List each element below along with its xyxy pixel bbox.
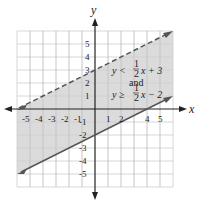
svg-text:2: 2 bbox=[85, 78, 90, 88]
svg-text:-2: -2 bbox=[61, 114, 69, 124]
x-axis-label: x bbox=[188, 102, 195, 116]
y-axis-up-arrow-icon bbox=[92, 18, 98, 26]
svg-text:4: 4 bbox=[85, 52, 90, 62]
ineq1-rhs: x + 3 bbox=[140, 65, 162, 76]
inequality-graph: y x -5 -4 -3 -2 -1 1 2 4 5 5 4 3 2 1 -1 … bbox=[0, 0, 200, 204]
svg-text:1: 1 bbox=[85, 91, 90, 101]
svg-text:-3: -3 bbox=[48, 114, 56, 124]
svg-text:-4: -4 bbox=[35, 114, 43, 124]
svg-text:5: 5 bbox=[158, 114, 163, 124]
svg-text:-2: -2 bbox=[79, 130, 87, 140]
ineq1-lhs: y < bbox=[111, 65, 126, 76]
frac2-den: 2 bbox=[134, 92, 139, 103]
svg-text:5: 5 bbox=[85, 39, 90, 49]
svg-text:4: 4 bbox=[145, 114, 150, 124]
y-axis-down-arrow-icon bbox=[92, 192, 98, 200]
svg-text:-5: -5 bbox=[79, 169, 87, 179]
ineq2-rhs: x − 2 bbox=[140, 89, 162, 100]
svg-text:-1: -1 bbox=[79, 117, 87, 127]
x-axis-left-arrow-icon bbox=[4, 106, 12, 112]
y-axis-label: y bbox=[90, 3, 97, 17]
svg-text:2: 2 bbox=[119, 114, 124, 124]
svg-text:-5: -5 bbox=[22, 114, 30, 124]
svg-text:-4: -4 bbox=[79, 156, 87, 166]
svg-text:-3: -3 bbox=[79, 143, 87, 153]
svg-text:3: 3 bbox=[85, 65, 90, 75]
svg-text:1: 1 bbox=[106, 114, 111, 124]
x-axis-right-arrow-icon bbox=[179, 106, 187, 112]
ineq2-lhs: y ≥ bbox=[111, 89, 125, 100]
